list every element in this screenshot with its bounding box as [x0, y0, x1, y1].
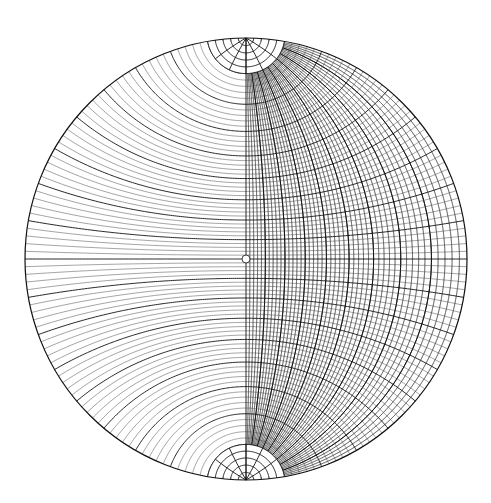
stereonet — [0, 0, 491, 503]
center-marker — [242, 255, 250, 263]
